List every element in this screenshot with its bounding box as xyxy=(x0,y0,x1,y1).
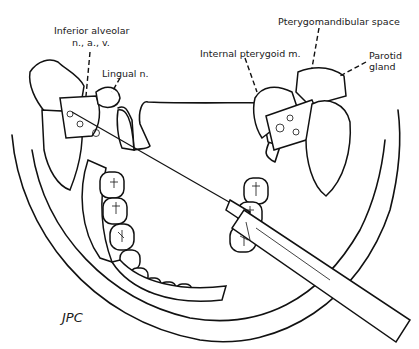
illustration: Inferior alveolar n., a., v. Lingual n. … xyxy=(0,0,419,349)
label-pterygomandibular-space: Pterygomandibular space xyxy=(278,16,400,27)
label-internal-pterygoid: Internal pterygoid m. xyxy=(200,48,301,59)
label-parotid-line1: Parotid xyxy=(369,50,402,61)
artist-signature: JPC xyxy=(59,310,84,325)
label-inferior-alveolar-line1: Inferior alveolar xyxy=(54,25,129,36)
anatomy-drawing: Inferior alveolar n., a., v. Lingual n. … xyxy=(0,0,419,349)
tooth xyxy=(103,198,127,224)
label-parotid-line2: gland xyxy=(369,61,396,72)
leader-internal-pterygoid xyxy=(245,58,257,92)
right-parotid-gland xyxy=(306,101,350,196)
leader-pterygomandibular xyxy=(312,28,319,68)
lingual-nerve-bulge xyxy=(96,87,120,107)
left-tonsil-fold xyxy=(117,110,134,150)
label-lingual-nerve: Lingual n. xyxy=(102,68,149,79)
tooth xyxy=(100,172,124,198)
label-inferior-alveolar-line2: n., a., v. xyxy=(72,37,110,48)
leader-inferior-alveolar xyxy=(86,52,90,96)
leader-parotid xyxy=(340,62,366,76)
right-pterygomandibular-space xyxy=(296,68,346,106)
syringe-plunger-line xyxy=(256,228,330,280)
